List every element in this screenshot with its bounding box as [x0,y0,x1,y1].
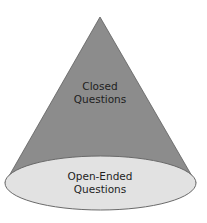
closed-questions-label: Closed Questions [50,80,150,106]
cone-diagram: Closed Questions Open-Ended Questions [0,0,207,223]
open-ended-questions-label: Open-Ended Questions [50,170,150,196]
open-label-line1: Open-Ended [50,170,150,183]
closed-label-line2: Questions [50,93,150,106]
open-label-line2: Questions [50,183,150,196]
closed-label-line1: Closed [50,80,150,93]
